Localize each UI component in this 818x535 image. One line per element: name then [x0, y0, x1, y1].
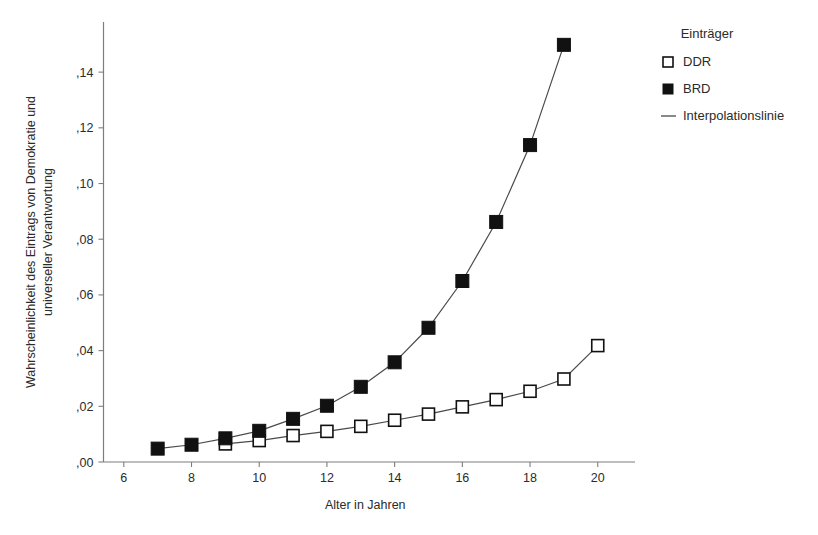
data-point-brd — [354, 380, 367, 393]
series-group — [151, 38, 604, 455]
y-axis-title-line1: Wahrscheinlichkeit des Eintrags von Demo… — [24, 96, 38, 388]
data-point-brd — [557, 38, 570, 51]
x-tick-label: 20 — [591, 471, 605, 485]
data-point-brd — [422, 321, 435, 334]
x-tick-label: 6 — [120, 471, 127, 485]
data-point-ddr — [558, 373, 570, 385]
x-tick-label: 16 — [455, 471, 469, 485]
legend-title: Einträger — [681, 26, 734, 41]
interpolation-line — [225, 346, 597, 444]
y-tick-label: ,04 — [76, 344, 93, 358]
data-point-brd — [524, 139, 537, 152]
open-square-icon — [663, 57, 673, 67]
axes-group — [104, 22, 636, 462]
legend: EinträgerDDRBRDInterpolationslinie — [661, 26, 784, 123]
data-point-ddr — [389, 414, 401, 426]
markers-ddr — [219, 340, 603, 450]
y-tick-label: ,00 — [76, 456, 93, 470]
data-point-ddr — [592, 340, 604, 352]
data-point-ddr — [355, 420, 367, 432]
probability-by-age-chart: ,00,02,04,06,08,10,12,1468101214161820Al… — [0, 0, 818, 535]
data-point-brd — [287, 412, 300, 425]
y-tick-label: ,06 — [76, 288, 93, 302]
legend-item-label: DDR — [683, 54, 711, 69]
data-point-brd — [185, 438, 198, 451]
x-tick-label: 8 — [188, 471, 195, 485]
data-point-brd — [151, 442, 164, 455]
x-tick-label: 12 — [320, 471, 334, 485]
legend-item-label: BRD — [683, 81, 710, 96]
legend-item-brd[interactable]: BRD — [663, 81, 710, 96]
data-point-ddr — [456, 401, 468, 413]
chart-figure: ,00,02,04,06,08,10,12,1468101214161820Al… — [0, 0, 818, 535]
data-point-brd — [388, 356, 401, 369]
data-point-ddr — [490, 394, 502, 406]
data-point-brd — [219, 432, 232, 445]
data-point-brd — [320, 399, 333, 412]
legend-item-ddr[interactable]: DDR — [663, 54, 711, 69]
y-tick-label: ,10 — [76, 177, 93, 191]
data-point-ddr — [422, 408, 434, 420]
y-axis-title: Wahrscheinlichkeit des Eintrags von Demo… — [24, 96, 55, 388]
x-tick-label: 10 — [252, 471, 266, 485]
y-tick-label: ,02 — [76, 400, 93, 414]
filled-square-icon — [663, 84, 673, 94]
data-point-brd — [253, 424, 266, 437]
data-point-brd — [490, 215, 503, 228]
x-tick-label: 14 — [388, 471, 402, 485]
data-point-ddr — [524, 385, 536, 397]
x-axis-ticks: 68101214161820 — [120, 462, 604, 485]
legend-item-interpolationslinie[interactable]: Interpolationslinie — [661, 108, 784, 123]
markers-brd — [151, 38, 570, 455]
y-tick-label: ,12 — [76, 121, 93, 135]
y-axis-ticks: ,00,02,04,06,08,10,12,14 — [76, 66, 103, 470]
legend-item-label: Interpolationslinie — [683, 108, 784, 123]
data-point-ddr — [287, 430, 299, 442]
x-tick-label: 18 — [523, 471, 537, 485]
y-tick-label: ,14 — [76, 66, 93, 80]
data-point-brd — [456, 274, 469, 287]
x-axis-title: Alter in Jahren — [325, 498, 406, 512]
data-point-ddr — [321, 425, 333, 437]
series-ddr — [225, 346, 597, 444]
y-tick-label: ,08 — [76, 233, 93, 247]
y-axis-title-line2: universeller Verantwortung — [41, 168, 55, 316]
